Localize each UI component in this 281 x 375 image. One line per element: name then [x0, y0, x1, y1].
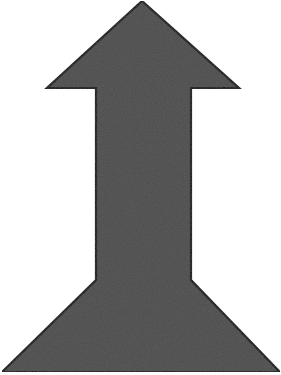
arrow-figure: upward arrow with flared base — [0, 0, 281, 375]
arrow-up-icon — [0, 0, 281, 375]
arrow-shape — [2, 1, 280, 372]
